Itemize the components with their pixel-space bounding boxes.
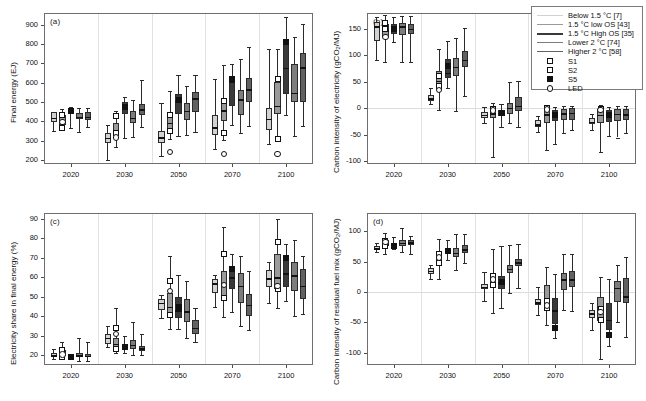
whisker-cap-upper	[383, 233, 387, 234]
whisker-cap-lower	[429, 279, 433, 280]
median-line	[130, 118, 136, 119]
whisker-cap-lower	[562, 133, 566, 134]
median-line	[283, 273, 289, 274]
median-line	[76, 117, 82, 118]
legend-item-category-3[interactable]: Lower 2 °C [74]	[537, 38, 620, 47]
x-tick-label: 2050	[157, 371, 201, 380]
median-line	[184, 111, 190, 112]
y-tick-mark	[364, 161, 367, 162]
group-separator	[421, 14, 422, 163]
x-tick-label: 2030	[426, 170, 470, 179]
whisker-cap-upper	[570, 254, 574, 255]
whisker-cap-lower	[482, 301, 486, 302]
whisker-cap-upper	[463, 234, 467, 235]
y-tick-label: 200	[8, 155, 38, 164]
scenario-marker-s2	[275, 136, 281, 142]
whisker-cap-lower	[222, 317, 226, 318]
whisker-cap-lower	[454, 111, 458, 112]
group-separator	[98, 14, 99, 163]
panel-tag: (c)	[50, 217, 60, 226]
whisker-cap-upper	[168, 256, 172, 257]
whisker-cap-lower	[52, 359, 56, 360]
whisker-cap-upper	[499, 104, 503, 105]
whisker-cap-lower	[491, 313, 495, 314]
box-plot-box	[274, 82, 280, 115]
whisker-line	[215, 79, 216, 150]
median-line	[139, 348, 145, 349]
median-line	[167, 123, 173, 124]
y-tick-label: 90	[8, 214, 38, 223]
whisker-cap-lower	[168, 329, 172, 330]
box-plot-box	[614, 281, 620, 302]
median-line	[130, 345, 136, 346]
median-line	[266, 119, 272, 120]
median-line	[158, 303, 164, 304]
legend-item-marker-s1[interactable]: S1	[537, 57, 577, 66]
whisker-cap-lower	[267, 303, 271, 304]
whisker-cap-upper	[52, 349, 56, 350]
whisker-cap-lower	[536, 315, 540, 316]
whisker-cap-upper	[284, 17, 288, 18]
x-tick-mark	[179, 164, 180, 167]
box-plot-box	[167, 293, 173, 314]
scenario-marker-s1	[167, 278, 173, 284]
whisker-cap-upper	[222, 227, 226, 228]
legend-item-category-2[interactable]: 1.5 °C High OS [35]	[537, 29, 634, 38]
scenario-marker-led	[544, 106, 551, 113]
whisker-cap-upper	[553, 274, 557, 275]
whisker-cap-upper	[454, 234, 458, 235]
scenario-marker-s5	[68, 354, 74, 360]
whisker-cap-upper	[616, 106, 620, 107]
median-line	[212, 283, 218, 284]
box-plot-box	[623, 278, 629, 303]
legend-item-marker-s2[interactable]: S2	[537, 66, 577, 75]
legend-item-category-1[interactable]: 1.5 °C low OS [43]	[537, 20, 630, 29]
median-line	[481, 287, 487, 288]
median-line	[515, 262, 521, 263]
whisker-cap-lower	[599, 152, 603, 153]
y-tick-mark	[41, 316, 44, 317]
median-line	[462, 249, 468, 250]
x-tick-label: 2100	[587, 371, 631, 380]
scenario-marker-s2	[436, 260, 442, 266]
scenario-marker-s1	[436, 73, 442, 79]
scenario-marker-s5	[122, 344, 128, 350]
median-line	[507, 108, 513, 109]
scenario-marker-s5	[391, 243, 397, 249]
whisker-cap-lower	[140, 355, 144, 356]
legend-item-category-4[interactable]: Higher 2 °C [58]	[537, 47, 621, 56]
scenario-marker-s2	[598, 317, 604, 323]
whisker-cap-lower	[293, 316, 297, 317]
whisker-cap-lower	[516, 127, 520, 128]
whisker-cap-lower	[545, 325, 549, 326]
legend-item-marker-s5[interactable]: S5	[537, 75, 577, 84]
whisker-cap-lower	[123, 138, 127, 139]
scenario-marker-s2	[59, 125, 65, 131]
median-line	[300, 67, 306, 68]
scenario-marker-s1	[113, 113, 119, 119]
group-separator	[259, 14, 260, 163]
median-line	[445, 73, 451, 74]
scenario-marker-s5	[176, 304, 182, 310]
scenario-marker-led	[490, 276, 497, 283]
scenario-marker-led	[59, 119, 66, 126]
legend-item-marker-led[interactable]: LED	[537, 84, 583, 93]
whisker-cap-lower	[159, 318, 163, 319]
whisker-cap-upper	[463, 28, 467, 29]
scenario-marker-s5	[445, 63, 451, 69]
whisker-cap-lower	[230, 125, 234, 126]
whisker-cap-upper	[409, 16, 413, 17]
scenario-marker-s2	[490, 282, 496, 288]
whisker-cap-lower	[123, 353, 127, 354]
whisker-line	[87, 342, 88, 361]
x-tick-mark	[125, 365, 126, 368]
legend-line-swatch	[537, 51, 563, 52]
legend-item-category-0[interactable]: Below 1.5 °C [7]	[537, 11, 622, 20]
x-tick-label: 2020	[372, 170, 416, 179]
whisker-cap-upper	[293, 37, 297, 38]
x-tick-mark	[286, 164, 287, 167]
y-tick-mark	[41, 121, 44, 122]
box-plot-box	[212, 279, 218, 293]
median-line	[300, 286, 306, 287]
scenario-marker-led	[113, 134, 120, 141]
